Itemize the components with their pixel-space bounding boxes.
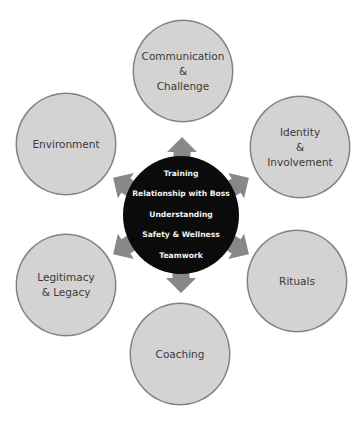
hub-item-teamwork: Teamwork [159, 246, 202, 267]
hub-item-safety-wellness: Safety & Wellness [142, 225, 220, 246]
hub-spoke-diagram: Training Relationship with Boss Understa… [0, 0, 361, 426]
hub-item-training: Training [164, 164, 199, 185]
hub-circle: Training Relationship with Boss Understa… [123, 156, 239, 274]
hub-item-relationship-with-boss: Relationship with Boss [132, 184, 230, 205]
hub-item-understanding: Understanding [149, 205, 212, 226]
